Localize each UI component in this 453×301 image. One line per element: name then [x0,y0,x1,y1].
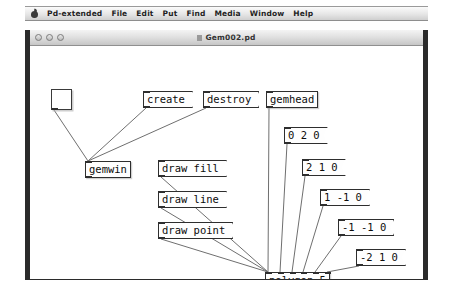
window-title: Gem002.pd [205,33,255,42]
outlet-0[interactable] [144,106,150,108]
menu-item-media[interactable]: Media [214,7,240,20]
wire-toggle-to-gemwin[interactable] [54,110,88,161]
inlet-0[interactable] [86,161,92,163]
inlet-0[interactable] [339,219,345,221]
outlet-0[interactable] [86,176,92,178]
box-label: draw fill [162,162,219,174]
wire-draw-point-to-polygon[interactable] [161,239,268,272]
window-title-wrap: Gem002.pd [30,33,423,42]
object-box-gemwin[interactable]: gemwin [85,161,131,178]
message-box-coord-0-2-0[interactable]: 0 2 0 [284,127,328,144]
inlet-0[interactable] [321,189,327,191]
inlet-0[interactable] [159,160,165,162]
inlet-3[interactable] [301,272,307,274]
menu-item-file[interactable]: File [111,7,127,20]
message-box-coord-2-1-0[interactable]: 2 1 0 [302,159,346,176]
message-box-coord-n2-1-0[interactable]: -2 1 0 [356,249,406,266]
box-label: draw line [162,193,219,205]
message-box-draw-point[interactable]: draw point [158,222,233,239]
outlet-0[interactable] [339,234,345,236]
wire-create-to-gemwin[interactable] [88,108,146,161]
wire-coord-n2-1-0-to-polygon[interactable] [327,266,359,272]
zoom-button[interactable] [57,34,64,41]
patch-canvas[interactable]: createdestroygemheadgemwindraw filldraw … [30,46,423,279]
menu-item-find[interactable]: Find [186,7,205,20]
outlet-0[interactable] [159,237,165,239]
inlet-0[interactable] [303,159,309,161]
wire-gemhead-to-polygon[interactable] [268,108,269,272]
box-label: draw point [162,224,225,236]
message-box-coord-n1-n1-0[interactable]: -1 -1 0 [338,219,394,236]
close-button[interactable] [35,34,42,41]
menu-item-help[interactable]: Help [293,7,313,20]
box-label: 1 -1 0 [324,191,362,203]
wire-coord-n1-n1-0-to-polygon[interactable] [315,236,341,272]
message-box-coord-1-n1-0[interactable]: 1 -1 0 [320,189,370,206]
message-box-create[interactable]: create [143,91,193,108]
inlet-2[interactable] [290,272,296,274]
inlet-0[interactable] [204,91,210,93]
menu-item-put[interactable]: Put [163,7,178,20]
apple-icon[interactable] [30,9,39,19]
document-icon [197,35,202,41]
outlet-0[interactable] [204,106,210,108]
inlet-0[interactable] [159,191,165,193]
box-label: polygon 5 [269,274,326,279]
wire-draw-line-to-polygon[interactable] [161,208,268,272]
outlet-0[interactable] [159,175,165,177]
menu-item-edit[interactable]: Edit [136,7,153,20]
window-titlebar[interactable]: Gem002.pd [30,30,423,46]
inlet-4[interactable] [313,272,319,274]
outlet-0[interactable] [285,142,291,144]
box-label: destroy [207,93,251,105]
outlet-0[interactable] [357,264,363,266]
inlet-0[interactable] [159,222,165,224]
box-label: gemwin [89,163,127,175]
wire-coord-0-2-0-to-polygon[interactable] [280,144,287,272]
box-label: -1 -1 0 [342,221,386,233]
inlet-0[interactable] [357,249,363,251]
wire-coord-1-n1-0-to-polygon[interactable] [303,206,323,272]
menu-bar: Pd-extended File Edit Put Find Media Win… [25,6,428,21]
screen: Pd-extended File Edit Put Find Media Win… [0,0,453,301]
outlet-0[interactable] [159,206,165,208]
inlet-0[interactable] [266,272,272,274]
box-label: create [147,93,185,105]
object-box-gemhead[interactable]: gemhead [266,91,318,108]
inlet-5[interactable] [325,272,331,274]
inlet-0[interactable] [285,127,291,129]
inlet-0[interactable] [267,91,273,93]
message-box-draw-fill[interactable]: draw fill [158,160,227,177]
object-box-polygon[interactable]: polygon 5 [265,272,330,279]
box-label: gemhead [270,93,314,105]
message-box-destroy[interactable]: destroy [203,91,259,108]
patch-window: Gem002.pd createdestroygemheadgemwindraw… [25,30,428,280]
outlet-0[interactable] [303,174,309,176]
menu-item-window[interactable]: Window [250,7,285,20]
box-label: 2 1 0 [306,161,338,173]
wire-destroy-to-gemwin[interactable] [88,108,206,161]
message-box-draw-line[interactable]: draw line [158,191,227,208]
inlet-0[interactable] [144,91,150,93]
window-controls [35,34,64,41]
inlet-1[interactable] [278,272,284,274]
toggle-object[interactable] [51,89,72,110]
toggle-outlet [52,108,58,110]
minimize-button[interactable] [46,34,53,41]
outlet-0[interactable] [267,106,273,108]
box-label: 0 2 0 [288,129,320,141]
box-label: -2 1 0 [360,251,398,263]
outlet-0[interactable] [321,204,327,206]
wire-coord-2-1-0-to-polygon[interactable] [292,176,305,272]
menu-item-pd-extended[interactable]: Pd-extended [47,7,102,20]
